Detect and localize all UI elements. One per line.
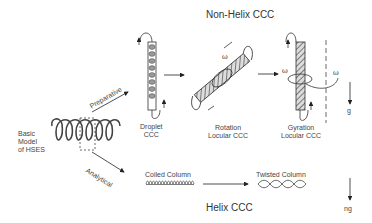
rotation-line1: Rotation <box>208 124 248 132</box>
svg-text:ω: ω <box>282 67 288 75</box>
droplet-line2: CCC <box>140 131 163 139</box>
diagram-canvas: ω ω ω <box>0 0 372 223</box>
coiled-column-icon <box>146 181 194 185</box>
gyration-ccc-label: Gyration Locular CCC <box>281 124 321 140</box>
gyration-line1: Gyration <box>281 124 321 132</box>
droplet-column-icon <box>139 33 164 118</box>
gravity-label: g <box>347 107 351 115</box>
analytical-arrow <box>92 152 124 172</box>
basic-model-line2: Model <box>18 138 45 146</box>
helix-coil-icon <box>52 118 120 150</box>
rotation-ccc-label: Rotation Locular CCC <box>208 124 248 140</box>
coiled-column-label: Coiled Column <box>145 171 191 179</box>
droplet-ccc-label: Droplet CCC <box>140 123 163 139</box>
gravity-n-label: ng <box>344 205 352 213</box>
basic-model-label: Basic Model of HSES <box>18 130 45 154</box>
gyration-column-icon <box>286 33 338 123</box>
gyration-line2: Locular CCC <box>281 132 321 140</box>
svg-text:ω: ω <box>333 69 339 77</box>
basic-model-line3: of HSES <box>18 146 45 154</box>
helix-title: Helix CCC <box>206 202 253 213</box>
droplet-line1: Droplet <box>140 123 163 131</box>
basic-model-line1: Basic <box>18 130 45 138</box>
omega-symbol: ω <box>222 53 228 61</box>
rotation-line2: Locular CCC <box>208 132 248 140</box>
twisted-column-label: Twisted Column <box>256 171 306 179</box>
non-helix-title: Non-Helix CCC <box>206 9 274 20</box>
twisted-column-icon <box>258 180 306 188</box>
